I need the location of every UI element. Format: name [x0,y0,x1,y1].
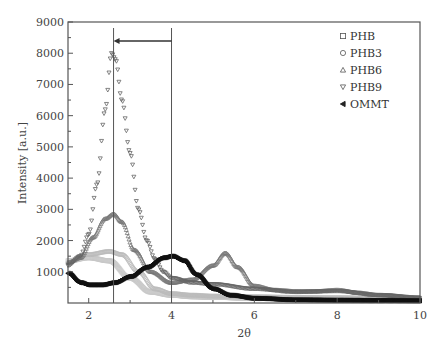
data-point [93,188,97,192]
legend-label: OMMT [350,98,390,111]
data-point [102,112,106,116]
legend-marker-icon [340,67,345,72]
data-point [148,245,152,249]
data-point [116,68,120,72]
legend-label: PHB6 [350,64,382,77]
data-point [129,155,133,159]
y-tick-label: 1000 [36,266,64,279]
y-tick-label: 3000 [36,203,64,216]
legend-label: PHB3 [350,47,382,60]
data-point [100,139,104,143]
legend-marker-icon [340,50,345,55]
x-tick-label: 6 [251,309,258,322]
data-point [139,216,143,220]
legend-marker-icon [340,33,345,38]
data-point [124,129,128,133]
data-point [132,175,136,179]
data-point [126,141,130,145]
data-point [122,106,126,110]
data-point [105,102,109,106]
y-tick-label: 7000 [36,78,64,91]
annotations [114,28,172,303]
legend-label: PHB9 [350,81,382,94]
y-tick-label: 4000 [36,172,64,185]
legend-item-phb: PHB [340,30,375,43]
y-tick-label: 2000 [36,235,64,248]
data-point [141,223,145,227]
x-tick-label: 10 [413,309,427,322]
data-point [101,123,105,127]
data-point [142,230,146,234]
data-point [106,88,110,92]
data-point [133,188,137,192]
legend-label: PHB [350,30,375,43]
data-point [107,71,111,75]
y-tick-label: 5000 [36,141,64,154]
data-point [92,196,96,200]
x-tick-label: 4 [168,309,175,322]
x-tick-label: 2 [85,309,92,322]
legend-marker-icon [340,101,345,106]
data-point [98,157,102,161]
data-point [97,172,101,176]
legend-item-phb3: PHB3 [340,47,382,60]
legend: PHBPHB3PHB6PHB9OMMT [340,30,389,111]
data-point [147,242,151,246]
x-tick-label: 8 [334,309,341,322]
data-point [103,108,107,112]
legend-item-ommt: OMMT [340,98,389,111]
data-point [91,208,95,212]
legend-item-phb9: PHB9 [340,81,382,94]
data-point [123,117,127,121]
legend-item-phb6: PHB6 [340,64,382,77]
data-point [90,219,94,223]
data-point [118,92,122,96]
data-point [114,60,118,64]
x-axis-label: 2θ [237,327,251,340]
arrow-head [114,38,120,44]
y-tick-label: 8000 [36,47,64,60]
xrd-chart: 246810 100020003000400050006000700080009… [0,0,446,353]
y-tick-label: 6000 [36,110,64,123]
data-point [121,100,125,104]
data-point [131,163,135,167]
y-axis-label: Intensity [a.u.] [16,122,29,204]
legend-marker-icon [340,85,345,90]
data-point [108,57,112,61]
data-point [134,200,138,204]
data-point [117,80,121,84]
data-point [88,228,92,232]
data-point [149,250,153,254]
y-tick-label: 9000 [36,16,64,29]
data-point [138,211,142,215]
